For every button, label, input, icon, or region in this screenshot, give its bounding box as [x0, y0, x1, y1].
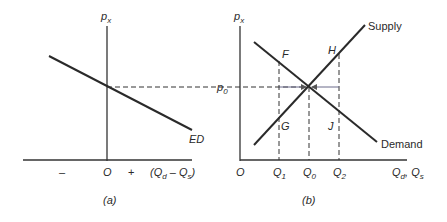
point-j: J — [327, 120, 334, 132]
minus-label: – — [59, 166, 66, 178]
excess-demand-curve — [49, 56, 192, 130]
y-axis-label-b: px — [233, 10, 245, 25]
panel-a: px ED – O + (Qd – Qs) (a) — [23, 10, 307, 206]
caption-b: (b) — [302, 194, 316, 206]
x-axis-label-a: (Qd – Qs) — [150, 166, 195, 181]
point-h: H — [328, 44, 336, 56]
demand-label: Demand — [381, 138, 423, 150]
point-g: G — [281, 120, 290, 132]
x-axis-label-b: Qd, Qs — [392, 166, 424, 181]
q2-label: Q2 — [333, 166, 347, 181]
p0-label: p0 — [216, 81, 228, 96]
demand-curve — [254, 42, 377, 142]
origin-label-a: O — [103, 166, 112, 178]
supply-label: Supply — [368, 20, 402, 32]
ed-label: ED — [189, 133, 204, 145]
y-axis-label-a: px — [100, 10, 112, 25]
origin-label-b: O — [236, 166, 245, 178]
point-f: F — [282, 48, 290, 60]
q1-label: Q1 — [273, 166, 286, 181]
plus-label: + — [128, 166, 134, 178]
panel-b: px p0 Supply Demand F H G J O Q1 Q0 Q2 Q… — [216, 10, 424, 206]
caption-a: (a) — [103, 194, 117, 206]
diagram-canvas: px ED – O + (Qd – Qs) (a) px p0 Supply D… — [0, 0, 447, 222]
q0-label: Q0 — [303, 166, 317, 181]
